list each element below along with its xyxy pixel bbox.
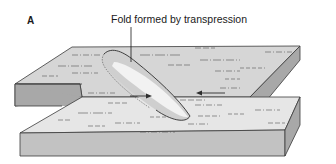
panel-label: A: [27, 15, 34, 26]
fold-caption: Fold formed by transpression: [111, 13, 247, 25]
